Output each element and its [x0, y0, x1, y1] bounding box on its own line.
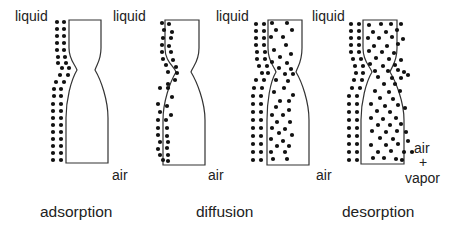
- molecule-dot: [270, 60, 274, 64]
- molecule-dot: [375, 109, 379, 113]
- molecule-dot: [387, 90, 391, 94]
- molecule-dot: [355, 150, 359, 154]
- molecule-dot: [170, 95, 174, 99]
- molecule-dot: [395, 28, 399, 32]
- molecule-dot: [262, 43, 266, 47]
- molecule-dot: [288, 120, 292, 124]
- molecule-dot: [289, 52, 293, 56]
- molecule-dot: [165, 146, 169, 150]
- molecule-dot: [270, 113, 274, 117]
- molecule-dot: [349, 50, 353, 54]
- molecule-dot: [55, 34, 59, 38]
- molecule-dot: [59, 94, 63, 98]
- molecule-dot: [167, 22, 171, 26]
- molecule-dot: [269, 150, 273, 154]
- molecule-dot: [287, 99, 291, 103]
- molecule-dot: [355, 134, 359, 138]
- molecule-dot: [287, 144, 291, 148]
- molecule-dot: [349, 43, 353, 47]
- molecule-dot: [164, 63, 168, 67]
- molecule-dot: [376, 75, 380, 79]
- molecule-dot: [406, 139, 410, 143]
- molecule-dot: [251, 150, 255, 154]
- molecule-dot: [402, 70, 406, 74]
- molecule-dot: [58, 73, 62, 77]
- molecule-dot: [160, 21, 164, 25]
- molecule-dot: [56, 61, 60, 65]
- molecule-dot: [361, 71, 365, 75]
- liquid-label-4: liquid: [312, 9, 345, 23]
- molecule-dot: [384, 130, 388, 134]
- molecule-dot: [357, 50, 361, 54]
- molecule-dot: [55, 27, 59, 31]
- molecule-dot: [388, 110, 392, 114]
- molecule-dot: [66, 73, 70, 77]
- molecule-dot: [259, 110, 263, 114]
- molecule-dot: [165, 104, 169, 108]
- molecule-dot: [259, 134, 263, 138]
- molecule-dot: [166, 153, 170, 157]
- molecule-dot: [251, 126, 255, 130]
- molecule-dot: [287, 108, 291, 112]
- molecule-dot: [254, 22, 258, 26]
- air-label-1: air: [112, 168, 128, 182]
- molecule-dot: [367, 49, 371, 53]
- molecule-dot: [158, 153, 162, 157]
- molecule-dot: [369, 143, 373, 147]
- molecule-dot: [379, 22, 383, 26]
- molecule-dot: [383, 104, 387, 108]
- molecule-dot: [51, 116, 55, 120]
- air-label-3: air: [316, 168, 332, 182]
- molecule-dot: [51, 109, 55, 113]
- molecule-dot: [372, 44, 376, 48]
- molecule-dot: [377, 36, 381, 40]
- molecule-dot: [55, 20, 59, 24]
- molecule-dot: [350, 86, 354, 90]
- molecule-dot: [275, 120, 279, 124]
- molecule-dot: [381, 64, 385, 68]
- liquid-label-3: liquid: [216, 9, 249, 23]
- molecule-dot: [161, 57, 165, 61]
- molecule-dot: [59, 144, 63, 148]
- molecule-dot: [254, 36, 258, 40]
- molecule-dot: [51, 123, 55, 127]
- molecule-dot: [374, 56, 378, 60]
- molecule-dot: [162, 28, 166, 32]
- molecule-dot: [262, 78, 266, 82]
- molecule-dot: [394, 116, 398, 120]
- molecule-dot: [285, 61, 289, 65]
- molecule-dot: [361, 64, 365, 68]
- pore-outlines: [66, 20, 404, 165]
- molecule-dot: [169, 36, 173, 40]
- molecule-dot: [391, 137, 395, 141]
- molecule-dot: [269, 137, 273, 141]
- molecule-dot: [389, 22, 393, 26]
- molecule-dot: [370, 129, 374, 133]
- molecule-dot: [160, 43, 164, 47]
- molecule-dot: [283, 127, 287, 131]
- molecule-dot: [167, 44, 171, 48]
- caption-desorption: desorption: [342, 204, 414, 220]
- molecule-dot: [388, 123, 392, 127]
- molecule-dot: [378, 96, 382, 100]
- molecule-dot: [174, 65, 178, 69]
- pore-outline-adsorption: [66, 20, 108, 163]
- molecule-dot: [400, 158, 404, 162]
- molecule-dot: [156, 118, 160, 122]
- molecule-dot: [166, 140, 170, 144]
- molecule-dot: [359, 57, 363, 61]
- molecule-dot: [406, 73, 410, 77]
- molecule-dot: [156, 102, 160, 106]
- molecule-dot: [283, 72, 287, 76]
- molecule-dot: [62, 48, 66, 52]
- molecule-dot: [161, 158, 165, 162]
- molecule-dot: [291, 72, 295, 76]
- molecule-dot: [347, 150, 351, 154]
- molecule-dot: [398, 89, 402, 93]
- molecule-dot: [369, 102, 373, 106]
- molecule-dot: [270, 126, 274, 130]
- molecule-dot: [59, 87, 63, 91]
- molecule-dot: [282, 86, 286, 90]
- molecule-dot: [380, 50, 384, 54]
- molecule-dot: [352, 78, 356, 82]
